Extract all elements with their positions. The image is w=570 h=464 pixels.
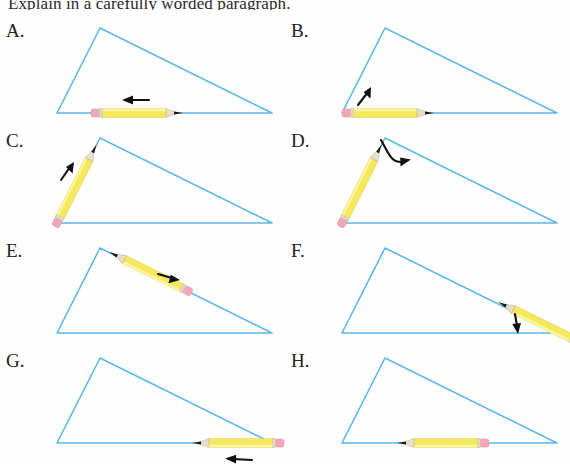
panel-d: D. — [285, 128, 570, 238]
pencil — [51, 143, 100, 229]
panel-c: C. — [0, 128, 285, 238]
panel-h-figure — [285, 348, 570, 464]
triangle-outline — [57, 358, 272, 443]
arrow-up-right-icon — [358, 87, 371, 105]
panel-e-figure — [0, 238, 285, 354]
triangle-outline — [57, 248, 272, 333]
panel-f: F. — [285, 238, 570, 348]
arrow-left-icon — [122, 96, 149, 105]
panel-e: E. — [0, 238, 285, 348]
pencil — [91, 109, 183, 118]
panel-b: B. — [285, 18, 570, 128]
pencil — [397, 439, 489, 448]
panel-f-figure — [285, 238, 570, 354]
pencil — [107, 248, 193, 296]
panel-d-figure — [285, 128, 570, 244]
panel-h: H. — [285, 348, 570, 458]
pencil — [342, 109, 434, 118]
panel-a: A. — [0, 18, 285, 128]
panel-a-figure — [0, 18, 285, 134]
triangle-outline — [342, 358, 557, 443]
pencil — [336, 143, 385, 229]
arrow-up-right-icon — [61, 162, 74, 180]
triangle-outline — [57, 138, 272, 223]
panel-g-figure — [0, 348, 285, 464]
triangle-outline — [342, 138, 557, 223]
panel-c-figure — [0, 128, 285, 244]
panel-b-figure — [285, 18, 570, 134]
panel-g: G. — [0, 348, 285, 458]
prompt-text: Explain in a carefully worded paragraph. — [8, 0, 291, 10]
triangle-outline — [342, 28, 557, 113]
pencil — [496, 298, 570, 346]
pencil — [192, 439, 284, 448]
triangle-outline — [57, 28, 272, 113]
arrow-left-icon — [225, 455, 252, 464]
